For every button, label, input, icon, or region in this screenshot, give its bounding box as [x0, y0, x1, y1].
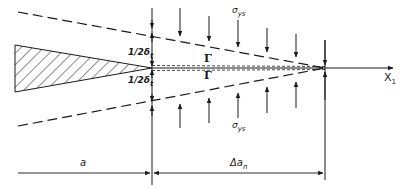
crack-tip-diagram: [0, 0, 409, 189]
sigma-symbol: σ: [232, 120, 238, 130]
half-delta-subscript: t: [150, 52, 153, 60]
axis-x-text: X: [384, 71, 392, 84]
half-delta-subscript: t: [150, 80, 153, 88]
delta-a-text: Δa: [230, 157, 243, 168]
crack-length-label: a: [80, 158, 86, 168]
half-delta-text: 1/2δ: [128, 75, 150, 85]
sigma-subscript: ys: [238, 125, 246, 133]
delta-a-label: Δan: [230, 158, 247, 168]
axis-subscript: 1: [392, 78, 396, 86]
sigma-ys-bottom-label: σys: [232, 121, 246, 130]
strip-dashed-top: [152, 66, 325, 67]
half-delta-top-label: 1/2δt: [128, 48, 153, 57]
x1-axis-label: X1: [384, 72, 396, 83]
half-delta-text: 1/2δ: [128, 47, 150, 57]
strip-dashed-bottom: [152, 70, 325, 71]
delta-a-subscript: n: [243, 163, 247, 171]
gamma-top-label: Γ: [204, 53, 212, 64]
half-delta-bottom-label: 1/2δt: [128, 76, 153, 85]
sigma-subscript: ys: [238, 10, 246, 18]
sigma-symbol: σ: [232, 5, 238, 15]
sigma-ys-top-label: σys: [232, 6, 246, 15]
gamma-bottom-label: Γ: [204, 70, 212, 81]
